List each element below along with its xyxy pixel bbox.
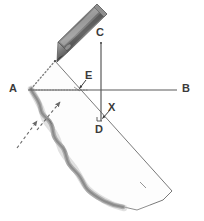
arrow-to-E — [80, 80, 87, 89]
label-x: X — [108, 102, 115, 113]
label-c: C — [96, 27, 104, 38]
dashed-arrow-lower — [17, 121, 37, 148]
label-b: B — [182, 83, 190, 94]
label-e: E — [85, 70, 92, 81]
figure-canvas: A B C D E X — [0, 0, 204, 221]
label-a: A — [9, 83, 17, 94]
label-d: D — [95, 124, 103, 135]
